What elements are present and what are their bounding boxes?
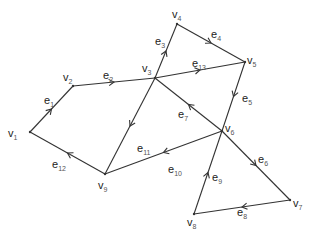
vertex-label-v2: v2	[63, 71, 73, 85]
vertex-v4	[176, 23, 178, 25]
edge-label-e13: e13	[192, 57, 206, 71]
vertex-label-v1: v1	[8, 127, 18, 141]
vertex-v3	[154, 77, 156, 79]
edge-label-e5: e5	[242, 92, 252, 106]
vertex-label-v7: v7	[293, 197, 303, 211]
vertex-label-v3: v3	[142, 62, 152, 76]
edge-label-e12: e12	[52, 158, 66, 172]
edge-label-e10: e10	[168, 163, 182, 177]
vertex-label-v8: v8	[187, 216, 197, 230]
vertex-label-v5: v5	[247, 54, 257, 68]
edges-layer	[29, 23, 291, 215]
edge-label-e2: e2	[103, 69, 113, 83]
vertex-v8	[193, 213, 195, 215]
edge-label-e6: e6	[258, 153, 268, 167]
edge-label-e1: e1	[44, 94, 54, 108]
edge-label-e3: e3	[155, 35, 165, 49]
vertex-label-v6: v6	[225, 122, 235, 136]
vertex-v7	[289, 199, 291, 201]
vertex-v2	[72, 85, 74, 87]
edge-label-e9: e9	[212, 171, 222, 185]
vertex-v6	[221, 130, 223, 132]
vertex-v1	[29, 131, 31, 133]
edge-label-e11: e11	[137, 142, 150, 156]
vertex-label-v9: v9	[98, 179, 108, 193]
vertex-v9	[104, 173, 106, 175]
vertex-v5	[244, 61, 246, 63]
directed-graph-diagram: e1e2e3e4e5e6e7e8e9e10e11e12e13v1v2v3v4v5…	[0, 0, 317, 233]
labels-layer: e1e2e3e4e5e6e7e8e9e10e11e12e13v1v2v3v4v5…	[8, 8, 303, 230]
edge-label-e7: e7	[178, 108, 188, 122]
vertex-label-v4: v4	[172, 8, 182, 22]
edge-label-e4: e4	[211, 28, 221, 42]
